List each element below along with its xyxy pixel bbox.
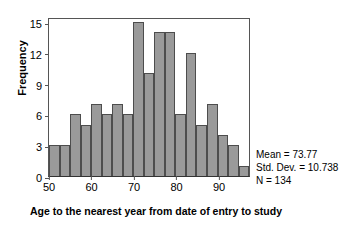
- histogram-bar: [60, 145, 71, 176]
- x-axis-tick: 80: [170, 176, 182, 193]
- histogram-bar: [207, 104, 218, 176]
- plot-area: 036912155060708090: [48, 18, 250, 177]
- x-axis-tick-mark: [91, 176, 92, 180]
- x-axis-tick-mark: [49, 176, 50, 180]
- y-axis-tick-label: 12: [30, 49, 45, 61]
- x-axis-tick-label: 60: [85, 181, 97, 193]
- x-axis-tick: 90: [213, 176, 225, 193]
- y-axis-tick: 15: [30, 18, 49, 30]
- y-axis-tick-label: 6: [36, 110, 45, 122]
- histogram-bar: [144, 73, 155, 176]
- y-axis-tick-mark: [45, 54, 49, 55]
- x-axis-tick: 70: [128, 176, 140, 193]
- histogram-bar: [91, 104, 102, 176]
- histogram-bar: [175, 114, 186, 176]
- stats-annotation: Mean = 73.77 Std. Dev. = 10.738 N = 134: [256, 148, 338, 187]
- stat-n: N = 134: [256, 174, 338, 187]
- histogram-bar: [228, 145, 239, 176]
- y-axis-tick-label: 3: [36, 141, 45, 153]
- y-axis-tick-label: 15: [30, 18, 45, 30]
- x-axis-tick-mark: [219, 176, 220, 180]
- x-axis-tick: 50: [43, 176, 55, 193]
- x-axis-tick-label: 70: [128, 181, 140, 193]
- histogram-bar: [70, 114, 81, 176]
- x-axis-tick-label: 90: [213, 181, 225, 193]
- histogram-bar: [112, 104, 123, 176]
- x-axis-tick-mark: [134, 176, 135, 180]
- x-axis-tick-label: 50: [43, 181, 55, 193]
- y-axis-tick: 12: [30, 49, 49, 61]
- x-axis-tick-label: 80: [170, 181, 182, 193]
- histogram-bar: [154, 32, 165, 176]
- y-axis-tick: 3: [36, 141, 49, 153]
- histogram-bar: [239, 166, 250, 176]
- y-axis-title: Frequency: [16, 8, 28, 128]
- y-axis-tick-mark: [45, 24, 49, 25]
- bars-container: [49, 19, 249, 176]
- stat-std-dev: Std. Dev. = 10.738: [256, 161, 338, 174]
- x-axis-title: Age to the nearest year from date of ent…: [26, 205, 286, 217]
- histogram-bar: [165, 32, 176, 176]
- y-axis-tick-mark: [45, 147, 49, 148]
- histogram-bar: [186, 53, 197, 176]
- histogram-bar: [49, 145, 60, 176]
- histogram-figure: Frequency 036912155060708090 Age to the …: [0, 0, 358, 235]
- histogram-bar: [81, 125, 92, 176]
- y-axis-tick: 9: [36, 80, 49, 92]
- histogram-bar: [123, 114, 134, 176]
- x-axis-tick: 60: [85, 176, 97, 193]
- stat-mean: Mean = 73.77: [256, 148, 338, 161]
- histogram-bar: [218, 135, 229, 176]
- histogram-bar: [196, 125, 207, 176]
- y-axis-tick-mark: [45, 116, 49, 117]
- histogram-bar: [102, 114, 113, 176]
- y-axis-tick-label: 9: [36, 80, 45, 92]
- y-axis-tick-mark: [45, 85, 49, 86]
- y-axis-tick: 6: [36, 110, 49, 122]
- histogram-bar: [133, 22, 144, 176]
- x-axis-tick-mark: [176, 176, 177, 180]
